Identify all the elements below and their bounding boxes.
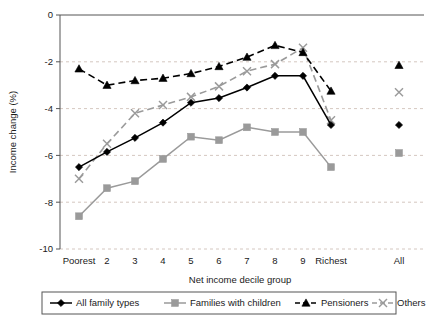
data-point-triangle [75,65,83,72]
x-tick-label: 2 [104,255,109,266]
x-tick-label: 3 [132,255,137,266]
x-tick-label: All [394,255,405,266]
data-point-diamond [103,148,110,155]
x-tick-label: 4 [160,255,165,266]
x-tick-label: 9 [300,255,305,266]
data-point-square [244,124,251,131]
y-axis-title: Income change (%) [7,91,18,173]
income-change-line-chart: 0-2-4-6-8-10 Poorest23456789RichestAll I… [0,0,438,319]
legend-label: All family types [76,297,140,308]
data-point-square [132,178,139,185]
chart-figure: 0-2-4-6-8-10 Poorest23456789RichestAll I… [0,0,438,319]
data-point-diamond [395,121,402,128]
data-point-triangle [187,69,195,76]
x-tick-label: 5 [188,255,193,266]
data-point-square [328,164,335,171]
data-point-square [76,213,83,220]
all-marker-families-with-children [396,150,403,157]
series-others [75,44,335,183]
data-point-square [272,129,279,136]
series-line [79,48,331,179]
all-marker-pensioners [395,61,403,68]
y-tick-label: -8 [45,197,53,208]
y-tick-label: 0 [48,9,53,20]
chart-legend: All family typesFamilies with childrenPe… [42,292,426,314]
data-point-square [300,129,307,136]
y-axis-ticks: 0-2-4-6-8-10 [39,9,60,254]
data-point-diamond [299,72,306,79]
legend-label: Others [397,297,426,308]
data-point-diamond [131,134,138,141]
data-point-square [172,300,179,307]
series-line [79,76,331,167]
data-point-square [188,133,195,140]
y-tick-label: -4 [45,103,53,114]
x-tick-label: 8 [272,255,277,266]
x-tick-label: Richest [315,255,347,266]
data-point-diamond [75,164,82,171]
legend-label: Families with children [190,297,281,308]
x-tick-label: 7 [244,255,249,266]
data-point-triangle [131,76,139,83]
data-point-diamond [243,84,250,91]
y-tick-label: -6 [45,150,53,161]
data-point-square [104,185,111,192]
all-marker-all-family-types [395,121,402,128]
data-series-layer [75,41,335,219]
x-axis-title: Net income decile group [189,274,291,285]
data-point-diamond [215,94,222,101]
series-line [79,45,331,91]
data-point-square [160,156,167,163]
legend-item-others[interactable]: Others [372,297,426,308]
series-pensioners [75,41,335,94]
legend-label: Pensioners [321,297,369,308]
x-axis-ticks: Poorest23456789RichestAll [63,255,405,266]
y-tick-label: -2 [45,56,53,67]
data-point-diamond [271,72,278,79]
all-marker-others [395,88,403,96]
series-families-with-children [76,124,335,220]
x-tick-label: 6 [216,255,221,266]
y-tick-label: -10 [39,243,53,254]
x-tick-label: Poorest [63,255,96,266]
data-point-square [396,150,403,157]
series-line [79,127,331,216]
series-all-family-types [75,72,334,170]
data-point-triangle [395,61,403,68]
plot-frame [60,15,424,249]
data-point-square [216,137,223,144]
data-point-triangle [271,41,279,48]
